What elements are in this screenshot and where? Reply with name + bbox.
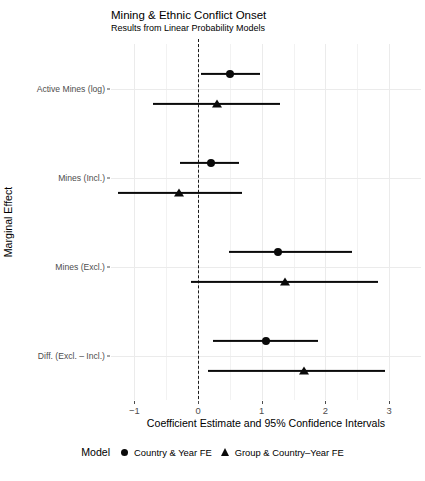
gridline-horizontal [111, 356, 421, 357]
x-axis-tick-mark [262, 401, 263, 404]
x-axis-tick-mark [389, 401, 390, 404]
estimate-point-marker [212, 99, 222, 107]
legend-title: Model [81, 446, 110, 458]
circle-marker-icon [121, 449, 128, 456]
y-axis-tick-label: Mines (Incl.) [58, 173, 105, 183]
gridline-vertical-major [262, 44, 263, 400]
y-axis-tick-label: Mines (Excl.) [55, 262, 105, 272]
gridline-vertical-minor [230, 44, 231, 400]
x-axis-tick-label: 0 [195, 405, 200, 416]
estimate-point-marker [280, 277, 290, 285]
legend-item-country-year-fe[interactable]: Country & Year FE [121, 447, 212, 458]
y-axis-tick-mark [107, 266, 110, 267]
gridline-horizontal [111, 267, 421, 268]
legend-label: Group & Country–Year FE [235, 447, 344, 458]
y-axis-title: Marginal Effect [2, 187, 14, 257]
gridline-vertical-minor [166, 44, 167, 400]
legend-label: Country & Year FE [134, 447, 212, 458]
gridline-vertical-major [325, 44, 326, 400]
x-axis-tick-label: −1 [129, 405, 140, 416]
triangle-marker-icon [221, 448, 229, 456]
x-axis-tick-mark [198, 401, 199, 404]
chart-title: Mining & Ethnic Conflict Onset [111, 8, 421, 22]
plot-panel [111, 44, 421, 400]
estimate-point-marker [207, 159, 215, 167]
x-axis-tick-label: 1 [259, 405, 264, 416]
confidence-interval-bar [229, 250, 351, 252]
y-axis-tick-mark [107, 88, 110, 89]
estimate-point-marker [262, 337, 270, 345]
chart-subtitle: Results from Linear Probability Models [111, 22, 421, 34]
gridline-vertical-major [134, 44, 135, 400]
estimate-point-marker [174, 188, 184, 196]
x-axis-tick-label: 2 [323, 405, 328, 416]
gridline-horizontal [111, 178, 421, 179]
x-axis-tick-mark [134, 401, 135, 404]
gridline-vertical-major [389, 44, 390, 400]
y-axis-tick-label: Active Mines (log) [37, 84, 105, 94]
estimate-point-marker [274, 248, 282, 256]
x-axis-tick-label: 3 [386, 405, 391, 416]
y-axis-tick-label: Diff. (Excl. – Incl.) [38, 351, 105, 361]
chart-figure: Mining & Ethnic Conflict Onset Results f… [0, 0, 425, 481]
title-block: Mining & Ethnic Conflict Onset Results f… [111, 8, 421, 34]
gridline-vertical-minor [357, 44, 358, 400]
legend: Model Country & Year FE Group & Country–… [0, 446, 425, 458]
gridline-horizontal [111, 89, 421, 90]
y-axis-tick-mark [107, 355, 110, 356]
confidence-interval-bar [208, 369, 386, 371]
estimate-point-marker [299, 366, 309, 374]
gridline-vertical-minor [294, 44, 295, 400]
estimate-point-marker [226, 70, 234, 78]
x-axis-tick-mark [325, 401, 326, 404]
legend-item-group-country-year-fe[interactable]: Group & Country–Year FE [221, 447, 344, 458]
zero-reference-line [198, 39, 199, 404]
x-axis-title: Coefficient Estimate and 95% Confidence … [111, 417, 421, 429]
y-axis-tick-mark [107, 177, 110, 178]
